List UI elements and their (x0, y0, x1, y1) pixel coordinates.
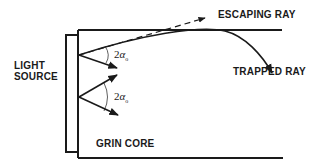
light-source-label-line2: SOURCE (14, 71, 58, 82)
light-source-label-line1: LIGHT (14, 60, 58, 71)
angle-arc-upper (105, 46, 108, 63)
ray-arrow-upper-lower (79, 55, 117, 68)
trapped-ray-label: TRAPPED RAY (233, 66, 306, 77)
light-source-housing (66, 35, 78, 152)
angle-label-upper: 2αo (114, 48, 128, 62)
angle-subscript: o (125, 56, 128, 62)
ray-arrow-lower-lower (79, 97, 118, 115)
angle-label-lower: 2αo (114, 90, 128, 104)
angle-subscript: o (125, 98, 128, 104)
light-source-label: LIGHT SOURCE (14, 60, 58, 82)
ray-arrow-lower-upper (79, 75, 117, 97)
grin-core-label: GRIN CORE (96, 138, 154, 149)
angle-arc-lower (104, 83, 108, 111)
grin-diagram (0, 0, 313, 167)
escaping-ray-label: ESCAPING RAY (218, 9, 296, 20)
